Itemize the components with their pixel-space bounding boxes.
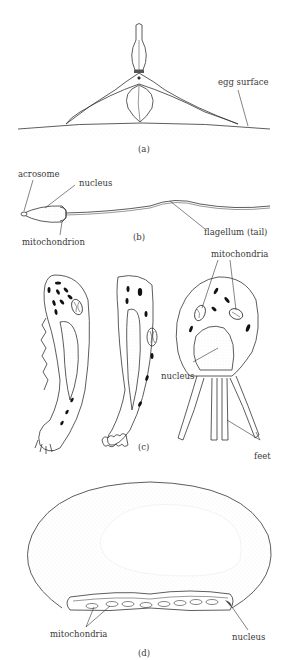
- panel-c-middle-cell: [102, 276, 157, 447]
- label-nucleus-c: nucleus: [161, 372, 194, 381]
- caption-b: (b): [133, 233, 145, 242]
- sperm-types-figure: egg surface (a) acrosome nucleus mitocho…: [0, 0, 292, 660]
- label-nucleus-b: nucleus: [79, 179, 112, 188]
- label-nucleus-d: nucleus: [232, 633, 265, 642]
- label-egg-surface: egg surface: [218, 78, 269, 87]
- panel-c-right-cell: [176, 260, 260, 440]
- caption-a: (a): [138, 145, 150, 154]
- caption-c: (c): [138, 443, 149, 452]
- label-flagellum: flagellum (tail): [204, 228, 267, 237]
- label-mitochondria-d: mitochondria: [50, 630, 107, 639]
- panel-d-drawing: [27, 482, 271, 630]
- label-acrosome: acrosome: [18, 170, 60, 179]
- caption-d: (d): [138, 649, 150, 658]
- label-mitochondrion: mitochondrion: [22, 238, 85, 247]
- label-mitochondria-c: mitochondria: [211, 250, 268, 259]
- label-feet: feet: [254, 452, 271, 461]
- figure-drawing: [0, 0, 292, 660]
- panel-c-left-cell: [35, 275, 89, 454]
